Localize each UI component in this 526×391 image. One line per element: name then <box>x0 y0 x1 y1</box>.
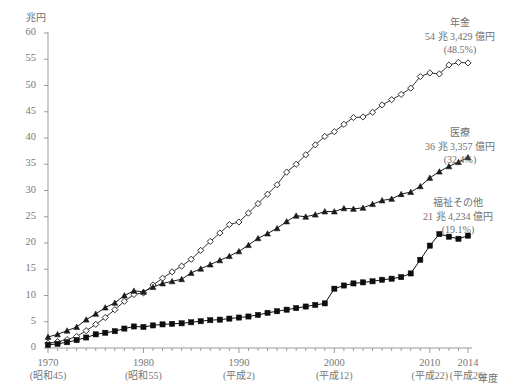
x-axis-tick-label-group: 1980(昭和55) <box>113 356 173 382</box>
data-point-marker <box>122 326 127 331</box>
data-point-marker <box>389 97 395 103</box>
data-point-marker <box>103 330 108 335</box>
data-point-marker <box>313 302 318 307</box>
data-point-marker <box>351 281 356 286</box>
x-axis-era-label: (平成12) <box>304 369 364 382</box>
data-point-marker <box>408 271 413 276</box>
y-axis-tick-label: 45 <box>10 106 36 116</box>
data-point-marker <box>189 320 194 325</box>
data-point-marker <box>217 257 223 262</box>
data-point-marker <box>227 316 232 321</box>
x-axis-era-label: (昭和45) <box>18 369 78 382</box>
data-point-marker <box>179 276 185 281</box>
y-axis-tick-label: 60 <box>10 27 36 37</box>
data-point-marker <box>112 329 117 334</box>
data-point-marker <box>93 321 99 327</box>
data-point-marker <box>370 279 375 284</box>
data-point-marker <box>427 175 433 180</box>
data-point-marker <box>427 70 433 76</box>
annotation-pension-line2: 54 兆 3,429 億円 <box>398 30 522 44</box>
data-point-marker <box>350 114 356 120</box>
x-axis-year-label: 2014 <box>458 357 479 368</box>
data-point-marker <box>169 321 174 326</box>
data-point-marker <box>236 315 241 320</box>
x-axis-tick-label-group: 2014(平成26) <box>438 356 498 382</box>
series-welfare <box>45 231 470 347</box>
data-point-marker <box>141 324 146 329</box>
annotation-pension-line3: (48.5%) <box>398 43 522 57</box>
data-point-marker <box>198 266 204 271</box>
data-point-marker <box>332 286 337 291</box>
annotation-pension-line1: 年金 <box>398 16 522 30</box>
annotation-welfare-line1: 福祉その他 <box>392 196 524 210</box>
data-point-marker <box>427 243 432 248</box>
data-point-marker <box>121 293 127 298</box>
y-axis-tick-label: 55 <box>10 53 36 63</box>
data-point-marker <box>64 328 70 333</box>
data-point-marker <box>399 275 404 280</box>
data-point-marker <box>255 235 261 240</box>
data-point-marker <box>45 342 50 347</box>
data-point-marker <box>303 304 308 309</box>
annotation-medical-line1: 医療 <box>398 126 522 140</box>
y-axis-tick-label: 20 <box>10 237 36 247</box>
y-axis-tick-label: 15 <box>10 263 36 273</box>
series-medical <box>45 155 471 340</box>
data-point-marker <box>294 306 299 311</box>
y-axis-tick-label: 40 <box>10 132 36 142</box>
data-point-marker <box>150 323 155 328</box>
x-axis-tick-label-group: 1990(平成2) <box>209 356 269 382</box>
data-point-marker <box>208 318 213 323</box>
data-point-marker <box>455 59 461 65</box>
data-point-marker <box>131 324 136 329</box>
x-axis-era-label: (昭和55) <box>113 369 173 382</box>
data-point-marker <box>398 91 404 97</box>
data-point-marker <box>408 189 414 194</box>
data-point-marker <box>389 276 394 281</box>
data-point-marker <box>265 310 270 315</box>
annotation-welfare-line2: 21 兆 4,234 億円 <box>392 210 524 224</box>
data-point-marker <box>284 307 289 312</box>
data-point-marker <box>360 114 366 120</box>
x-axis-year-label: 2000 <box>324 357 345 368</box>
x-axis-tick-label-group: 1970(昭和45) <box>18 356 78 382</box>
data-point-marker <box>169 269 175 275</box>
y-axis-tick-label: 5 <box>10 316 36 326</box>
data-point-marker <box>255 312 260 317</box>
data-point-marker <box>265 231 271 236</box>
data-point-marker <box>322 301 327 306</box>
y-axis-tick-label: 50 <box>10 80 36 90</box>
y-axis-tick-label: 35 <box>10 158 36 168</box>
data-point-marker <box>226 253 232 258</box>
data-point-marker <box>207 262 213 267</box>
data-point-marker <box>93 332 98 337</box>
y-axis-unit-label: 兆円 <box>26 9 46 24</box>
data-point-marker <box>465 60 471 66</box>
data-point-marker <box>274 225 280 230</box>
x-axis-tick-label-group: 2000(平成12) <box>304 356 364 382</box>
data-point-marker <box>274 309 279 314</box>
data-point-marker <box>179 263 185 269</box>
data-point-marker <box>379 277 384 282</box>
y-axis-tick-label: 30 <box>10 185 36 195</box>
annotation-welfare: 福祉その他21 兆 4,234 億円(19.1%) <box>392 196 524 237</box>
data-point-marker <box>83 317 89 322</box>
y-axis-tick-label: 25 <box>10 211 36 221</box>
y-axis-tick-label: 0 <box>10 342 36 352</box>
annotation-medical-line3: (32.4%) <box>398 153 522 167</box>
x-axis-year-label: 1970 <box>38 357 59 368</box>
data-point-marker <box>83 328 89 334</box>
data-point-marker <box>284 219 290 224</box>
annotation-pension: 年金54 兆 3,429 億円(48.5%) <box>398 16 522 57</box>
data-point-marker <box>246 242 252 247</box>
data-point-marker <box>160 322 165 327</box>
y-axis-tick-label: 10 <box>10 290 36 300</box>
series-line <box>48 157 468 337</box>
data-point-marker <box>360 280 365 285</box>
data-point-marker <box>246 314 251 319</box>
data-point-marker <box>236 249 242 254</box>
x-axis-era-label: (平成26) <box>438 369 498 382</box>
x-axis-year-label: 1980 <box>133 357 154 368</box>
data-point-marker <box>188 270 194 275</box>
social-security-expenditure-chart: 兆円 年度 051015202530354045505560 1970(昭和45… <box>0 0 526 391</box>
